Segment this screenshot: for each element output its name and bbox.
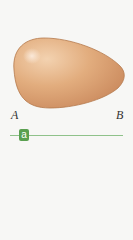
slider-handle-a[interactable]: a [19,129,29,141]
label-a-point: A [11,108,18,123]
label-b-point: B [116,108,123,123]
